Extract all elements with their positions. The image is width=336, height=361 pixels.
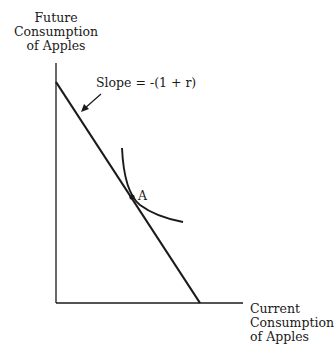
y-axis-label-line1: Future [0,11,112,25]
budget-line [56,82,200,303]
x-axis-label-line3: of Apples [250,330,334,344]
indifference-curve [122,148,183,222]
slope-annotation: Slope = -(1 + r) [96,76,196,90]
x-axis-label-line2: Consumption [250,316,334,330]
point-a-marker [129,194,134,199]
x-axis-label-line1: Current [250,302,334,316]
y-axis-label-line2: Consumption [0,25,112,39]
x-axis-label: Current Consumption of Apples [250,302,334,344]
point-a-label: A [138,189,147,203]
y-axis-label: Future Consumption of Apples [0,11,112,53]
y-axis-label-line3: of Apples [0,39,112,53]
